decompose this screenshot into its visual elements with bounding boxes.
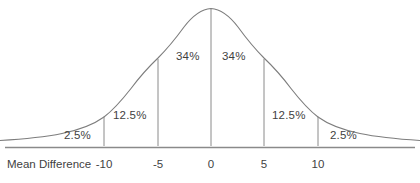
percent-label-right-center: 34% (222, 51, 246, 63)
x-axis-name-label: Mean Difference (7, 159, 91, 171)
x-tick-label-neg10: -10 (89, 159, 119, 171)
curve-graphic (0, 0, 420, 183)
bell-curve-path (0, 9, 420, 141)
percent-label-left-center: 34% (176, 51, 200, 63)
percent-label-right-tail: 2.5% (330, 130, 357, 142)
x-tick-label-pos10: 10 (304, 159, 332, 171)
percent-label-right-mid: 12.5% (272, 110, 306, 122)
x-tick-label-pos5: 5 (251, 159, 277, 171)
percent-label-left-mid: 12.5% (113, 110, 147, 122)
normal-distribution-chart: 2.5% 12.5% 34% 34% 12.5% 2.5% Mean Diffe… (0, 0, 420, 183)
x-tick-label-neg5: -5 (144, 159, 172, 171)
x-tick-label-zero: 0 (198, 159, 224, 171)
percent-label-left-tail: 2.5% (64, 130, 91, 142)
